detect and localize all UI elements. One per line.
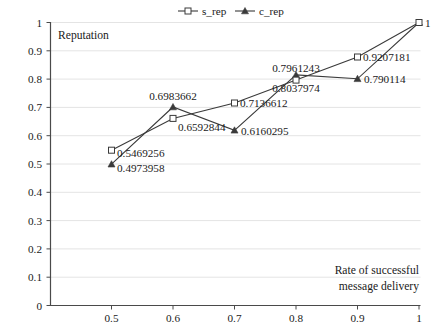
marker-s-rep-0.9 [355, 54, 361, 60]
marker-s-rep-1.0 [416, 20, 422, 26]
y-tick-label-0.2: 0.2 [28, 243, 42, 255]
y-tick-label-0.9: 0.9 [28, 45, 42, 57]
y-tick-label-0.4: 0.4 [28, 186, 42, 198]
legend-marker-square-icon [185, 8, 191, 14]
y-tick-label-0: 0 [36, 300, 42, 312]
y-tick-label-1.0: 1 [36, 17, 42, 29]
marker-s-rep-0.7 [232, 100, 238, 106]
chart-container: 1 0.9 0.8 0.7 0.6 0.5 0.4 0.3 0.2 0.1 0 … [0, 0, 434, 335]
marker-s-rep-0.5 [109, 147, 115, 153]
data-label-s-rep-0.7: 0.7136612 [240, 97, 288, 109]
x-axis-title-line2: message delivery [339, 280, 419, 293]
x-tick-label-0.8: 0.8 [289, 312, 303, 324]
data-label-s-rep-0.8: 0.7961243 [272, 62, 320, 74]
data-label-c-rep-0.5: 0.4973958 [117, 162, 165, 174]
marker-s-rep-0.6 [170, 115, 176, 121]
data-label-c-rep-0.9: 0.790114 [364, 73, 406, 85]
x-tick-label-1.0: 1 [416, 312, 422, 324]
y-tick-label-0.7: 0.7 [28, 101, 42, 113]
data-label-c-rep-0.7: 0.6160295 [241, 125, 289, 137]
y-tick-label-0.1: 0.1 [28, 271, 42, 283]
line-chart: 1 0.9 0.8 0.7 0.6 0.5 0.4 0.3 0.2 0.1 0 … [0, 0, 434, 335]
data-label-s-rep-0.6: 0.6592844 [178, 121, 226, 133]
data-label-s-rep-1.0: 1 [425, 17, 431, 29]
x-axis-title-line1: Rate of successful [335, 264, 419, 277]
legend-label-s-rep: s_rep [202, 5, 227, 17]
x-tick-label-0.9: 0.9 [351, 312, 365, 324]
data-label-s-rep-0.5: 0.5469256 [117, 147, 165, 159]
x-tick-label-0.7: 0.7 [228, 312, 242, 324]
y-tick-label-0.8: 0.8 [28, 73, 42, 85]
y-axis-title: Reputation [58, 29, 109, 42]
x-tick-label-0.6: 0.6 [166, 312, 180, 324]
data-label-s-rep-0.9: 0.9207181 [363, 51, 411, 63]
y-tick-label-0.5: 0.5 [28, 158, 42, 170]
data-label-c-rep-0.6: 0.6983662 [149, 90, 197, 102]
y-tick-label-0.3: 0.3 [28, 215, 42, 227]
x-tick-label-0.5: 0.5 [105, 312, 119, 324]
data-label-c-rep-0.8: 0.8037974 [272, 82, 320, 94]
legend-label-c-rep: c_rep [259, 5, 284, 17]
y-tick-label-0.6: 0.6 [28, 130, 42, 142]
